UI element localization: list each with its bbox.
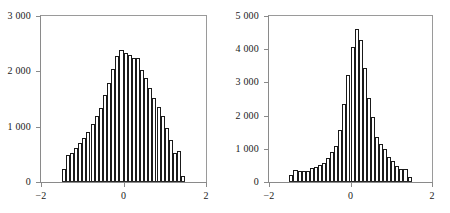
x-axis-label: 0	[104, 191, 144, 201]
y-axis-label: 3 000	[225, 77, 259, 87]
histogram-figure: 01 0002 0003 000 −202 01 0002 0003 0004 …	[0, 0, 450, 213]
y-axis-label: 3 000	[0, 11, 31, 21]
y-axis-label: 2 000	[225, 111, 259, 121]
chart-panel-right: 01 0002 0003 0004 0005 000 −202	[225, 0, 450, 213]
x-axis-tick	[269, 182, 270, 187]
y-axis-label: 5 000	[225, 11, 259, 21]
x-axis-tick	[206, 182, 207, 187]
y-axis-tick	[264, 16, 269, 17]
x-axis-tick	[432, 182, 433, 187]
x-axis-label: 2	[412, 191, 450, 201]
y-axis-label: 2 000	[0, 66, 31, 76]
y-axis-label: 1 000	[225, 144, 259, 154]
x-axis-label: −2	[21, 191, 61, 201]
plot-frame-right	[268, 15, 433, 183]
y-axis-tick	[36, 71, 41, 72]
histogram-bars-left	[41, 16, 206, 182]
x-axis-label: 0	[331, 191, 371, 201]
x-axis-tick	[124, 182, 125, 187]
y-axis-tick	[264, 82, 269, 83]
x-axis-label: 2	[186, 191, 226, 201]
x-axis-label: −2	[249, 191, 289, 201]
y-axis-tick	[36, 16, 41, 17]
y-axis-label: 4 000	[225, 44, 259, 54]
x-axis-tick	[351, 182, 352, 187]
y-axis-tick	[264, 116, 269, 117]
y-axis-tick	[36, 127, 41, 128]
histogram-bars-right	[269, 16, 432, 182]
x-axis-tick	[41, 182, 42, 187]
plot-frame-left	[40, 15, 207, 183]
y-axis-label: 1 000	[0, 122, 31, 132]
chart-panel-left: 01 0002 0003 000 −202	[0, 0, 225, 213]
y-axis-label: 0	[225, 177, 259, 187]
y-axis-label: 0	[0, 177, 31, 187]
y-axis-tick	[264, 49, 269, 50]
y-axis-tick	[264, 149, 269, 150]
